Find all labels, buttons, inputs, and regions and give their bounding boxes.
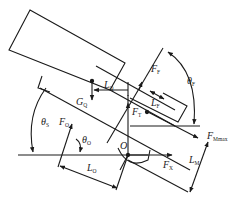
label-f-o: FO [59, 117, 69, 129]
label-f-t: FT [132, 107, 141, 119]
diagram-drawing [0, 0, 236, 197]
force-diagram: LQ FF θF LF GQ FT θS FO θO FMmax O FX LM… [0, 0, 236, 197]
label-g-q: GQ [76, 97, 87, 109]
label-theta-s: θS [41, 117, 49, 129]
label-f-f: FF [151, 64, 160, 76]
upper-body-outline [9, 10, 125, 90]
label-l-o: LO [87, 163, 97, 175]
label-l-q: LQ [104, 80, 114, 92]
label-l-m: LM [189, 155, 199, 167]
label-f-x: FX [163, 160, 173, 172]
label-f-mmax: FMmax [207, 131, 227, 143]
label-l-f: LF [151, 98, 160, 110]
label-theta-o: θO [82, 135, 91, 147]
label-theta-f: θF [187, 76, 195, 88]
label-origin-o: O [120, 141, 127, 151]
